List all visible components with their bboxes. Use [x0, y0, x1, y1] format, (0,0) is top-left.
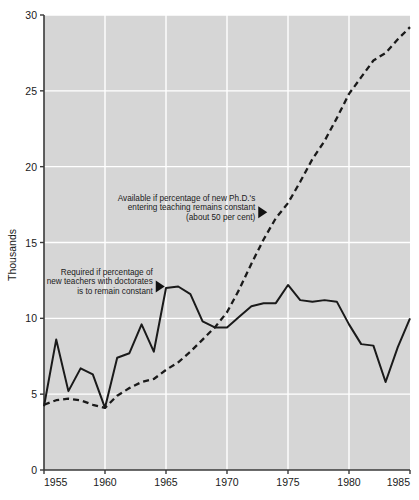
annotation-line: entering teaching remains constant	[128, 203, 256, 212]
line-chart: 051015202530 195519601965197019751980198…	[0, 0, 419, 500]
x-tick-label: 1965	[154, 476, 178, 488]
annotation-line: Available if percentage of new Ph.D.'s	[118, 194, 256, 203]
x-tick-label: 1960	[93, 476, 117, 488]
x-tick-label: 1980	[337, 476, 361, 488]
y-tick-label: 15	[25, 237, 37, 249]
y-axis-tick-labels: 051015202530	[25, 9, 37, 476]
y-tick-label: 30	[25, 9, 37, 21]
annotation-line: new teachers with doctorates	[47, 277, 153, 286]
annotation-line: is to remain constant	[77, 287, 153, 296]
y-tick-label: 25	[25, 85, 37, 97]
x-tick-label: 1955	[44, 476, 68, 488]
x-tick-label: 1975	[276, 476, 300, 488]
y-tick-label: 5	[31, 388, 37, 400]
annotation-line: Required if percentage of	[61, 268, 154, 277]
y-tick-label: 20	[25, 161, 37, 173]
x-axis-tick-labels: 1955196019651970197519801985	[44, 476, 410, 488]
y-tick-label: 10	[25, 312, 37, 324]
x-tick-label: 1985	[387, 476, 411, 488]
y-axis-title: Thousands	[6, 229, 18, 281]
annotation-line: (about 50 per cent)	[186, 213, 255, 222]
y-tick-label: 0	[31, 464, 37, 476]
x-tick-label: 1970	[215, 476, 239, 488]
chart-figure: 051015202530 195519601965197019751980198…	[0, 0, 419, 500]
